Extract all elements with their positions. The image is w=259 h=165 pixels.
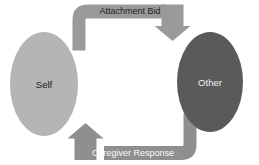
diagram-canvas: Attachment Bid Caregiver Response Self O…	[0, 0, 259, 165]
node-other[interactable]: Other	[177, 32, 243, 132]
node-self[interactable]: Self	[10, 32, 78, 136]
edge-caregiver-response[interactable]: Caregiver Response	[68, 113, 197, 160]
attachment-bid-label: Attachment Bid	[99, 6, 160, 16]
other-label: Other	[198, 77, 222, 88]
attachment-cycle-diagram: Attachment Bid Caregiver Response Self O…	[0, 0, 259, 165]
self-label: Self	[36, 79, 53, 90]
edge-attachment-bid[interactable]: Attachment Bid	[73, 5, 191, 51]
caregiver-response-label: Caregiver Response	[92, 148, 174, 158]
